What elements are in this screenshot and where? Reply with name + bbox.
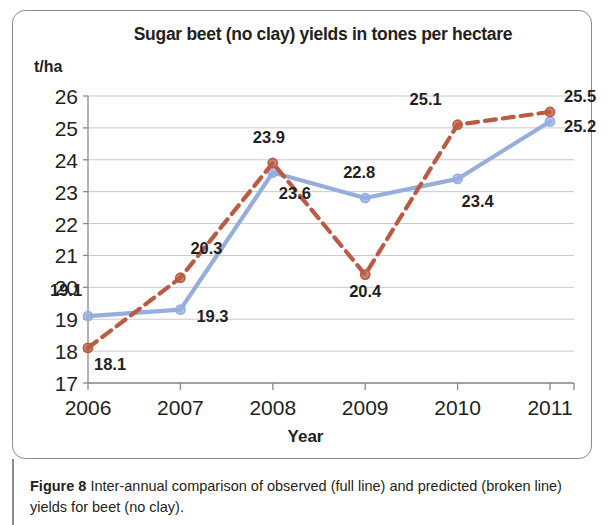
y-tick-label: 21 — [32, 245, 78, 266]
data-point-label: 18.1 — [94, 356, 126, 373]
y-tick-label: 26 — [32, 86, 78, 107]
x-axis-title: Year — [0, 427, 611, 447]
plot-area: 17181920212223242526 2006200720082009201… — [0, 0, 611, 460]
chart-svg — [0, 0, 611, 460]
x-tick-label: 2009 — [320, 397, 410, 418]
y-tick-label: 22 — [32, 214, 78, 235]
y-tick-label: 18 — [32, 341, 78, 362]
figure-caption-label: Figure 8 — [30, 478, 86, 494]
data-point-label: 23.9 — [253, 129, 285, 146]
data-point-label: 19.3 — [196, 308, 228, 325]
data-point-label: 23.6 — [279, 185, 311, 202]
x-tick-label: 2011 — [505, 397, 595, 418]
figure-caption-text: Inter-annual comparison of observed (ful… — [30, 478, 562, 515]
y-tick-label: 24 — [32, 150, 78, 171]
y-tick-label: 23 — [32, 182, 78, 203]
y-tick-label: 25 — [32, 118, 78, 139]
figure-caption: Figure 8 Inter-annual comparison of obse… — [30, 476, 590, 518]
data-point-label: 25.1 — [410, 91, 442, 108]
x-tick-label: 2010 — [413, 397, 503, 418]
data-point-label: 25.5 — [564, 88, 596, 105]
data-point-label: 23.4 — [462, 193, 494, 210]
data-point-label: 20.3 — [190, 240, 222, 257]
figure-8: Sugar beet (no clay) yields in tones per… — [0, 0, 611, 525]
x-tick-label: 2007 — [135, 397, 225, 418]
data-point-label: 25.2 — [564, 118, 596, 135]
data-point-label: 22.8 — [343, 164, 375, 181]
data-point-label: 19.1 — [50, 282, 82, 299]
y-tick-label: 17 — [32, 373, 78, 394]
x-tick-label: 2008 — [228, 397, 318, 418]
y-tick-label: 19 — [32, 309, 78, 330]
data-point-label: 20.4 — [349, 283, 381, 300]
x-tick-label: 2006 — [43, 397, 133, 418]
caption-left-rule — [12, 459, 14, 525]
